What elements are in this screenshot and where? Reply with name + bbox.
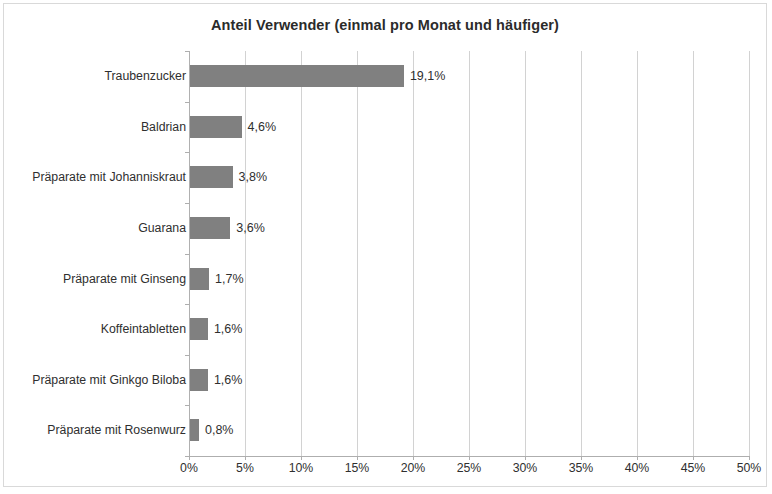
- bar-value-label: 1,6%: [214, 318, 243, 340]
- category-axis-labels: TraubenzuckerBaldrianPräparate mit Johan…: [0, 51, 186, 456]
- x-tick-label: 30%: [513, 461, 538, 475]
- category-label: Traubenzucker: [0, 65, 186, 87]
- bar[interactable]: [190, 65, 404, 87]
- bar[interactable]: [190, 268, 209, 290]
- bar[interactable]: [190, 318, 208, 340]
- x-tick-label: 0%: [180, 461, 198, 475]
- x-tick-label: 20%: [401, 461, 426, 475]
- bar-row: 4,6%: [189, 102, 749, 153]
- x-tick-mark: [581, 456, 582, 460]
- category-label: Koffeintabletten: [0, 318, 186, 340]
- category-label: Präparate mit Rosenwurz: [0, 419, 186, 441]
- x-tick-label: 25%: [457, 461, 482, 475]
- bar-value-label: 1,7%: [215, 268, 244, 290]
- bar-value-label: 3,8%: [239, 166, 268, 188]
- x-tick-label: 35%: [569, 461, 594, 475]
- x-tick-label: 45%: [681, 461, 706, 475]
- x-tick-label: 50%: [737, 461, 762, 475]
- x-tick-mark: [749, 456, 750, 460]
- bar-row: 3,6%: [189, 203, 749, 254]
- x-tick-label: 40%: [625, 461, 650, 475]
- category-label: Baldrian: [0, 116, 186, 138]
- bar-value-label: 1,6%: [214, 369, 243, 391]
- bar[interactable]: [190, 369, 208, 391]
- bar-value-label: 0,8%: [205, 419, 234, 441]
- bar-row: 1,6%: [189, 304, 749, 355]
- bar-row: 1,6%: [189, 355, 749, 406]
- x-tick-mark: [637, 456, 638, 460]
- chart-title: Anteil Verwender (einmal pro Monat und h…: [4, 17, 766, 33]
- y-tick-mark: [185, 456, 189, 457]
- x-tick-label: 10%: [289, 461, 314, 475]
- bar-value-label: 19,1%: [410, 65, 445, 87]
- bar[interactable]: [190, 419, 199, 441]
- x-tick-mark: [469, 456, 470, 460]
- bar[interactable]: [190, 166, 233, 188]
- x-tick-label: 15%: [345, 461, 370, 475]
- chart-frame: Anteil Verwender (einmal pro Monat und h…: [3, 3, 767, 487]
- bar-row: 0,8%: [189, 405, 749, 456]
- x-tick-mark: [189, 456, 190, 460]
- bar-value-label: 3,6%: [236, 217, 265, 239]
- x-tick-mark: [301, 456, 302, 460]
- category-label: Präparate mit Johanniskraut: [0, 166, 186, 188]
- x-tick-mark: [413, 456, 414, 460]
- bar[interactable]: [190, 217, 230, 239]
- bar-row: 3,8%: [189, 152, 749, 203]
- x-tick-mark: [245, 456, 246, 460]
- category-label: Guarana: [0, 217, 186, 239]
- bar-row: 19,1%: [189, 51, 749, 102]
- bar-value-label: 4,6%: [248, 116, 277, 138]
- x-tick-mark: [357, 456, 358, 460]
- category-label: Präparate mit Ginseng: [0, 268, 186, 290]
- plot-area: 19,1%4,6%3,8%3,6%1,7%1,6%1,6%0,8% 0%5%10…: [189, 51, 749, 456]
- x-tick-mark: [693, 456, 694, 460]
- x-tick-mark: [525, 456, 526, 460]
- bar-row: 1,7%: [189, 254, 749, 305]
- category-label: Präparate mit Ginkgo Biloba: [0, 369, 186, 391]
- x-tick-label: 5%: [236, 461, 254, 475]
- gridline-50%: [749, 51, 750, 456]
- bar[interactable]: [190, 116, 242, 138]
